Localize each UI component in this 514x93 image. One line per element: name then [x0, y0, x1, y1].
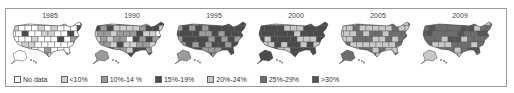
us-map — [419, 20, 497, 68]
map-panel-1985: 1985 — [9, 11, 91, 69]
map-panel-2005: 2005 — [337, 11, 419, 69]
legend-swatch — [260, 76, 267, 83]
us-map — [91, 20, 169, 68]
legend-label: >30% — [321, 76, 339, 83]
legend-label: <10% — [70, 76, 88, 83]
alaska — [257, 50, 273, 64]
us-map — [255, 20, 333, 68]
alaska — [11, 50, 27, 64]
legend-swatch — [312, 76, 319, 83]
legend-label: 10%-14 % — [110, 76, 142, 83]
alaska — [421, 50, 437, 64]
legend-item: 15%-19% — [155, 76, 194, 83]
map-panel-2009: 2009 — [419, 11, 501, 69]
us-map — [173, 20, 251, 68]
year-label: 2000 — [255, 12, 337, 19]
legend-label: 20%-24% — [216, 76, 246, 83]
alaska — [93, 50, 109, 64]
year-label: 2005 — [337, 12, 419, 19]
legend-swatch — [207, 76, 214, 83]
legend-label: 15%-19% — [164, 76, 194, 83]
legend-swatch — [14, 76, 21, 83]
map-panel-1995: 1995 — [173, 11, 255, 69]
figure-frame: 198519901995200020052009 No data<10%10%-… — [5, 8, 507, 87]
legend-swatch — [101, 76, 108, 83]
year-label: 1990 — [91, 12, 173, 19]
map-panel-1990: 1990 — [91, 11, 173, 69]
legend-item: No data — [14, 76, 48, 83]
us-map — [337, 20, 415, 68]
year-label: 2009 — [419, 12, 501, 19]
year-label: 1985 — [9, 12, 91, 19]
legend-item: 10%-14 % — [101, 76, 142, 83]
legend-label: No data — [23, 76, 48, 83]
legend-swatch — [155, 76, 162, 83]
legend: No data<10%10%-14 %15%-19%20%-24%25%-29%… — [14, 74, 352, 84]
alaska — [339, 50, 355, 64]
legend-label: 25%-29% — [269, 76, 299, 83]
legend-item: >30% — [312, 76, 339, 83]
map-panel-2000: 2000 — [255, 11, 337, 69]
legend-item: 25%-29% — [260, 76, 299, 83]
legend-item: <10% — [61, 76, 88, 83]
year-label: 1995 — [173, 12, 255, 19]
legend-item: 20%-24% — [207, 76, 246, 83]
alaska — [175, 50, 191, 64]
us-map — [9, 20, 87, 68]
legend-swatch — [61, 76, 68, 83]
